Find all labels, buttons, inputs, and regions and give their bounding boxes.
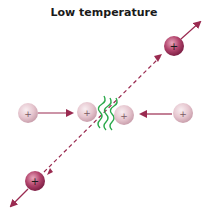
svg-text:+: +: [24, 109, 32, 119]
ion-center-left: +: [77, 102, 97, 122]
ion-bottom-left: +: [25, 171, 45, 191]
outgoing-arrow-bottom-left: [11, 189, 28, 206]
ion-left: +: [18, 103, 38, 123]
svg-text:+: +: [179, 109, 187, 119]
svg-text:+: +: [31, 176, 39, 187]
outgoing-arrow-top-right: [181, 22, 200, 39]
svg-text:+: +: [83, 108, 91, 118]
arrowhead-icon: [154, 54, 162, 62]
ion-top-right: +: [164, 36, 184, 56]
ion-right: +: [173, 103, 193, 123]
arrowhead-icon: [47, 168, 53, 175]
collision-diagram: + + + + + +: [0, 0, 208, 214]
svg-text:+: +: [120, 111, 128, 121]
svg-text:+: +: [170, 41, 178, 52]
ion-center-right: +: [114, 105, 134, 125]
